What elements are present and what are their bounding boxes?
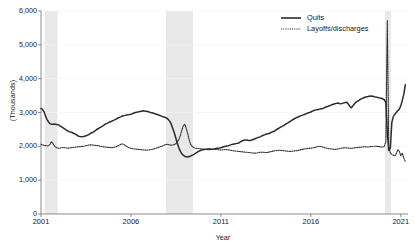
- x-axis-tick-label: 2021: [385, 217, 415, 226]
- y-axis-tick-label: 6,000: [3, 7, 37, 15]
- x-axis-title: Year: [41, 233, 405, 242]
- legend-label-layoffs-discharges: Layoffs/discharges: [307, 24, 369, 33]
- x-axis-tick-label: 2011: [205, 217, 237, 226]
- y-axis-tick-label: 5,000: [3, 41, 37, 49]
- y-axis-tick-label: 1,000: [3, 176, 37, 184]
- y-axis-tick-label: 2,000: [3, 142, 37, 150]
- y-axis-tick-label: 3,000: [3, 109, 37, 117]
- x-axis-tick-label: 2006: [115, 217, 147, 226]
- legend-label-quits: Quits: [307, 13, 324, 22]
- plot-area: [0, 0, 415, 246]
- chart-figure: (Thousands) Year 01,0002,0003,0004,0005,…: [0, 0, 415, 246]
- series-line-layoffs-discharges: [41, 20, 405, 161]
- x-axis-tick-label: 2001: [25, 217, 57, 226]
- x-axis-tick-label: 2016: [295, 217, 327, 226]
- y-axis-tick-label: 4,000: [3, 75, 37, 83]
